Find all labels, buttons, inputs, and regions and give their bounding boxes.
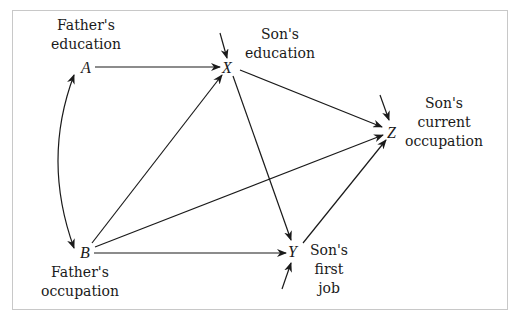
- label-sons-first-job: Son's first job: [305, 241, 353, 298]
- label-fathers-occupation: Father's occupation: [40, 263, 120, 301]
- disturbance-x: [220, 33, 227, 58]
- edge-a-b-correlation: [58, 75, 74, 248]
- node-y: Y: [288, 244, 297, 260]
- edge-y-z: [303, 140, 386, 243]
- node-b: B: [80, 245, 90, 261]
- edge-x-y: [233, 76, 291, 240]
- label-sons-education: Son's education: [244, 25, 316, 63]
- node-z: Z: [387, 125, 396, 141]
- label-sons-current-occupation: Son's current occupation: [403, 94, 485, 151]
- edge-b-z: [95, 135, 383, 247]
- edge-x-z: [240, 70, 382, 127]
- disturbance-z: [380, 95, 389, 120]
- label-fathers-education: Father's education: [50, 16, 122, 54]
- edge-b-x: [92, 75, 222, 243]
- node-a: A: [81, 60, 91, 76]
- node-x: X: [222, 60, 232, 76]
- disturbance-y: [282, 263, 291, 289]
